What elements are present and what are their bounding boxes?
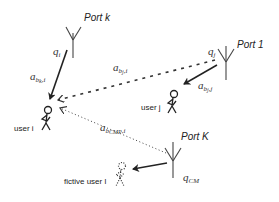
- gain-a-bj-i-label: abj,i: [113, 62, 127, 75]
- precoder-q-cm-label: qCM: [183, 172, 199, 185]
- user-i-label: user i: [14, 125, 34, 133]
- diagram-graphics: [0, 0, 279, 202]
- antenna-port-k-icon: [66, 27, 81, 58]
- user-j-figure-icon: [168, 91, 178, 114]
- user-i-figure-icon: [42, 107, 52, 131]
- precoder-q-i-label: qi: [53, 46, 60, 59]
- gain-a-bj-j-label: abj,j: [198, 80, 212, 93]
- port-K-label: Port K: [181, 132, 209, 142]
- diagram-canvas: Port k Port 1 Port K user i user j ficti…: [0, 0, 279, 202]
- link-port-K-fictive-user: [133, 163, 167, 169]
- fictive-user-l-figure-icon: [116, 163, 126, 187]
- precoder-q-j-label: qj: [208, 46, 215, 59]
- antenna-port-1-icon: [218, 46, 234, 80]
- port-1-label: Port 1: [237, 40, 264, 50]
- gain-a-bk-i-label: abk,i: [30, 71, 45, 84]
- antenna-port-K-icon: [165, 142, 181, 178]
- user-j-label: user j: [141, 104, 161, 112]
- fictive-user-l-label: fictive user l: [64, 178, 106, 186]
- gain-a-bcmp-i-label: abCMP,i: [100, 122, 125, 135]
- port-k-label: Port k: [84, 13, 110, 23]
